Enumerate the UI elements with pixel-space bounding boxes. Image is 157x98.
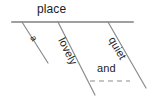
noun-label-place: place xyxy=(37,3,66,15)
conjunction-label-and: and xyxy=(97,63,116,74)
modifier-line-a xyxy=(22,22,48,63)
diagram-canvas xyxy=(0,0,157,98)
sentence-diagram: place a lovely quiet and xyxy=(0,0,157,98)
